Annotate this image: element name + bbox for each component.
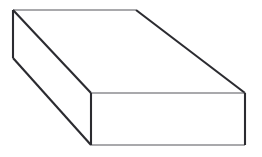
box-drawing-figure bbox=[0, 0, 262, 157]
box-svg-canvas bbox=[0, 0, 262, 157]
front-face bbox=[91, 93, 245, 145]
